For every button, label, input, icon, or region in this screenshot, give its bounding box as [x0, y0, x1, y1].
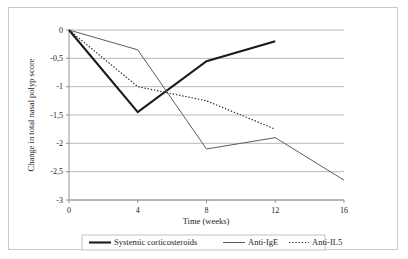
y-tick-label: 0 — [59, 26, 63, 35]
x-axis-title: Time (weeks) — [183, 216, 230, 226]
x-tick-label: 12 — [271, 206, 279, 215]
y-tick-label: -1,5 — [50, 111, 63, 120]
x-tick-label: 8 — [205, 206, 209, 215]
y-tick-label: -2,5 — [50, 167, 63, 176]
chart-legend: Systemic corticosteroidsAnti-IgEAnti-IL5 — [82, 235, 342, 250]
x-tick-label: 16 — [340, 206, 348, 215]
plot-stage: 0-0,5-1-1,5-2-2,5-3 0481216 Change in to… — [9, 8, 399, 251]
y-tick-label: -3 — [56, 196, 63, 205]
y-tick-label: -0,5 — [50, 54, 63, 63]
y-axis-tick-labels: 0-0,5-1-1,5-2-2,5-3 — [50, 26, 63, 205]
y-tick-label: -2 — [56, 139, 63, 148]
x-tick-label: 0 — [67, 206, 71, 215]
x-tick-label: 4 — [136, 206, 140, 215]
chart-frame: 0-0,5-1-1,5-2-2,5-3 0481216 Change in to… — [8, 7, 398, 250]
y-axis-title: Change in total nasal polyp score — [26, 58, 36, 171]
line-chart: 0-0,5-1-1,5-2-2,5-3 0481216 Change in to… — [9, 8, 399, 251]
x-axis-tick-labels: 0481216 — [67, 206, 348, 215]
y-tick-label: -1 — [56, 82, 63, 91]
legend-label-1: Systemic corticosteroids — [114, 237, 197, 247]
legend-label-3: Anti-IL5 — [312, 237, 342, 247]
legend-label-2: Anti-IgE — [248, 237, 278, 247]
